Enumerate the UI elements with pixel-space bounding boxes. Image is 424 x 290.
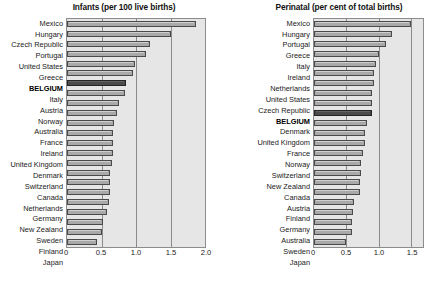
- bar: [314, 199, 354, 205]
- category-label: Mexico: [236, 18, 310, 29]
- bar-row: [314, 49, 423, 59]
- bar: [314, 90, 372, 96]
- chart-panel-infants: Infants (per 100 live births) MexicoHung…: [0, 0, 212, 290]
- bar-row: [314, 187, 423, 197]
- category-label: Denmark: [0, 170, 63, 181]
- x-tick-label: 1.0: [374, 248, 385, 257]
- category-label: Norway: [236, 159, 310, 170]
- category-labels-infants: MexicoHungaryCzech RepublicPortugalUnite…: [0, 18, 66, 268]
- bar: [314, 170, 361, 176]
- bar-row: [67, 217, 205, 227]
- bar: [67, 189, 110, 195]
- category-label: BELGIUM: [236, 116, 310, 127]
- bar-row: [314, 158, 423, 168]
- bar-row: [314, 29, 423, 39]
- bar: [314, 140, 365, 146]
- bar-row: [67, 98, 205, 108]
- bar-row: [314, 148, 423, 158]
- category-label: Czech Republic: [236, 105, 310, 116]
- bar: [67, 51, 146, 57]
- bar: [314, 51, 379, 57]
- bar: [314, 239, 346, 245]
- category-label: Greece: [236, 51, 310, 62]
- bar-row: [314, 138, 423, 148]
- bar: [314, 21, 411, 27]
- category-label: Sweden: [236, 246, 310, 257]
- bar: [67, 80, 126, 86]
- bar: [314, 150, 363, 156]
- plot-area-infants: [66, 18, 206, 248]
- bar-row: [67, 108, 205, 118]
- category-label: Mexico: [0, 18, 63, 29]
- bar: [67, 70, 133, 76]
- bar-row: [314, 98, 423, 108]
- bar: [67, 100, 119, 106]
- bar: [67, 219, 103, 225]
- bar-row: [67, 158, 205, 168]
- bar: [314, 110, 372, 116]
- bar-row: [67, 78, 205, 88]
- category-label: United Kingdom: [0, 159, 63, 170]
- x-tick-label: 1.5: [166, 248, 177, 257]
- category-label: Austria: [236, 203, 310, 214]
- category-label: Sweden: [0, 236, 63, 247]
- category-label: United States: [0, 62, 63, 73]
- category-label: New Zealand: [0, 225, 63, 236]
- bar: [67, 199, 109, 205]
- x-axis-perinatal: 00.51.01.5: [313, 248, 424, 268]
- bar-series-infants: [67, 19, 205, 247]
- bar: [314, 219, 352, 225]
- x-tick-label: 2.0: [201, 248, 212, 257]
- bar: [314, 130, 365, 136]
- bar: [67, 229, 102, 235]
- category-label: France: [0, 138, 63, 149]
- bar-row: [314, 59, 423, 69]
- bar-row: [67, 49, 205, 59]
- bar: [314, 120, 367, 126]
- bar: [67, 90, 125, 96]
- bar-row: [314, 39, 423, 49]
- bar-series-perinatal: [314, 19, 423, 247]
- category-label: Italy: [236, 62, 310, 73]
- dual-bar-chart-figure: Infants (per 100 live births) MexicoHung…: [0, 0, 424, 290]
- bar-row: [67, 148, 205, 158]
- bar: [67, 140, 113, 146]
- category-label: Canada: [0, 192, 63, 203]
- bar-row: [314, 108, 423, 118]
- category-label: Japan: [236, 257, 310, 268]
- bar-row: [314, 69, 423, 79]
- category-label: Netherlands: [236, 83, 310, 94]
- bar: [314, 229, 352, 235]
- chart-panel-perinatal: Perinatal (per cent of total births) Mex…: [212, 0, 424, 290]
- x-tick-label: 0: [311, 248, 315, 257]
- plot-column-perinatal: 00.51.01.5: [313, 18, 424, 268]
- category-label: Finland: [0, 246, 63, 257]
- x-tick-label: 0.5: [341, 248, 352, 257]
- x-tick-label: 0: [64, 248, 68, 257]
- bar: [314, 61, 376, 67]
- bar-row: [67, 187, 205, 197]
- bar: [67, 130, 113, 136]
- bar-row: [314, 88, 423, 98]
- plot-column-infants: 00.51.01.52.0: [66, 18, 206, 268]
- category-label: Hungary: [0, 29, 63, 40]
- bar: [314, 31, 392, 37]
- gridline: [205, 19, 206, 247]
- category-label: Germany: [0, 214, 63, 225]
- category-label: Germany: [236, 225, 310, 236]
- bar-row: [67, 88, 205, 98]
- bar-row: [67, 39, 205, 49]
- bar: [314, 70, 374, 76]
- bar: [67, 160, 112, 166]
- bar: [67, 239, 97, 245]
- bar-row: [67, 59, 205, 69]
- bar: [314, 179, 360, 185]
- category-label: BELGIUM: [0, 83, 63, 94]
- category-labels-perinatal: MexicoHungaryPortugalGreeceItalyIrelandN…: [236, 18, 313, 268]
- category-label: Australia: [236, 236, 310, 247]
- bar: [67, 31, 171, 37]
- category-label: Hungary: [236, 29, 310, 40]
- category-label: Switzerland: [0, 181, 63, 192]
- category-label: Finland: [236, 214, 310, 225]
- panel-title-perinatal: Perinatal (per cent of total births): [212, 2, 424, 12]
